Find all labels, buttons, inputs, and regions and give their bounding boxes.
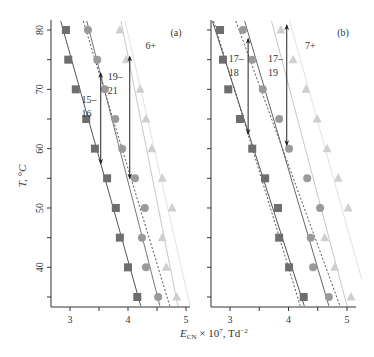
panel-label: (b)	[337, 27, 349, 39]
range-annotation: 19	[268, 67, 278, 78]
y-tick-label: 60	[34, 144, 45, 154]
triangle-marker	[141, 114, 150, 123]
triangle-marker	[334, 173, 343, 182]
x-label-subscript: CN	[187, 333, 197, 341]
square-marker	[116, 234, 124, 242]
range-annotation: 21	[108, 85, 118, 96]
triangle-marker	[158, 233, 167, 242]
range-annotation: 18	[229, 67, 239, 78]
triangle-marker	[158, 173, 167, 182]
fit-line	[87, 21, 160, 306]
charge-state-label: 7+	[305, 40, 316, 51]
y-tick-label: 50	[34, 203, 45, 213]
circle-marker	[307, 234, 315, 242]
circle-marker	[142, 263, 150, 271]
circle-marker	[239, 26, 247, 34]
x-tick-label: 4	[126, 314, 131, 325]
square-marker	[91, 145, 99, 153]
svg-text:ECN × 107, Td−2: ECN × 107, Td−2	[179, 327, 248, 341]
circle-marker	[154, 293, 162, 301]
triangle-marker	[344, 203, 353, 212]
x-tick-label: 4	[286, 314, 291, 325]
x-axis-label: ECN × 107, Td−2	[179, 327, 248, 341]
x-tick-label: 5	[345, 314, 350, 325]
x-label-unit: , Td	[223, 327, 241, 339]
circle-marker	[84, 26, 92, 34]
circle-marker	[303, 174, 311, 182]
x-tick-label: 5	[184, 314, 189, 325]
triangle-marker	[330, 262, 339, 271]
fit-line	[125, 21, 190, 306]
square-marker	[248, 145, 256, 153]
panel-b: 34517–1817–19(b)7+	[207, 20, 362, 325]
square-marker	[72, 85, 80, 93]
circle-marker	[118, 145, 126, 153]
range-annotation: 16	[82, 108, 92, 119]
triangle-marker	[276, 25, 285, 34]
y-tick-label: 40	[34, 262, 45, 272]
circle-marker	[111, 115, 119, 123]
circle-marker	[138, 234, 146, 242]
square-marker	[112, 204, 120, 212]
triangle-marker	[172, 292, 181, 301]
square-marker	[285, 263, 293, 271]
circle-marker	[248, 56, 256, 64]
chart-figure: 405060708034515–1619–21(a)6+ 34517–1817–…	[0, 0, 374, 357]
range-annotation: 17–	[229, 53, 245, 64]
fit-line	[83, 21, 169, 306]
square-marker	[103, 174, 111, 182]
triangle-marker	[289, 55, 298, 64]
circle-marker	[275, 115, 283, 123]
x-tick-label: 3	[68, 314, 73, 325]
circle-marker	[316, 204, 324, 212]
circle-marker	[93, 56, 101, 64]
square-marker	[224, 85, 232, 93]
circle-marker	[325, 293, 333, 301]
triangle-marker	[302, 84, 311, 93]
square-marker	[236, 115, 244, 123]
x-label-unit-exponent: −2	[240, 327, 248, 335]
fit-line	[236, 21, 340, 306]
square-marker	[133, 293, 141, 301]
square-marker	[64, 56, 72, 64]
x-tick-label: 3	[228, 314, 233, 325]
y-axis-label: T, °C	[16, 164, 28, 187]
triangle-marker	[168, 203, 177, 212]
range-annotation: 15–	[82, 94, 98, 105]
square-marker	[62, 26, 70, 34]
square-marker	[275, 234, 283, 242]
square-marker	[219, 56, 227, 64]
panel-label: (a)	[170, 27, 181, 39]
triangle-marker	[136, 84, 145, 93]
charge-state-label: 6+	[145, 40, 156, 51]
square-marker	[274, 204, 282, 212]
y-tick-label: 80	[34, 25, 45, 35]
circle-marker	[259, 85, 267, 93]
x-label-times: × 10	[196, 327, 219, 339]
square-marker	[261, 174, 269, 182]
circle-marker	[141, 204, 149, 212]
y-tick-label: 70	[34, 84, 45, 94]
circle-marker	[285, 145, 293, 153]
triangle-marker	[147, 144, 156, 153]
circle-marker	[131, 174, 139, 182]
triangle-marker	[347, 292, 356, 301]
range-annotation: 17–	[268, 53, 284, 64]
square-marker	[300, 293, 308, 301]
square-marker	[124, 263, 132, 271]
panel-a: 405060708034515–1619–21(a)6+	[34, 20, 190, 325]
square-marker	[216, 26, 224, 34]
circle-marker	[309, 263, 317, 271]
range-annotation: 19–	[108, 71, 124, 82]
triangle-marker	[313, 114, 322, 123]
